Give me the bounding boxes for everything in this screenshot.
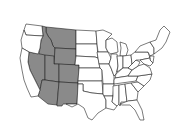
state-colorado[interactable] xyxy=(59,64,79,83)
state-iowa[interactable] xyxy=(97,52,111,64)
state-wyoming[interactable] xyxy=(54,48,76,65)
state-mississippi[interactable] xyxy=(112,85,119,106)
state-north-dakota[interactable] xyxy=(76,30,97,44)
state-nebraska[interactable] xyxy=(75,56,100,68)
state-arizona[interactable] xyxy=(38,80,59,105)
state-washington[interactable] xyxy=(24,24,43,36)
state-wisconsin[interactable] xyxy=(106,38,118,54)
state-florida[interactable] xyxy=(120,100,144,120)
state-new-mexico[interactable] xyxy=(57,82,78,106)
state-michigan[interactable] xyxy=(120,42,128,56)
state-kansas[interactable] xyxy=(78,68,102,81)
us-map xyxy=(0,0,181,136)
state-arkansas[interactable] xyxy=(103,84,114,96)
